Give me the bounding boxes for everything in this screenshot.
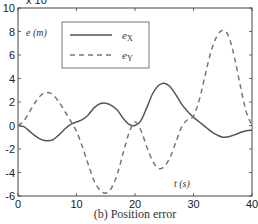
y-tick-label: 0 [9, 120, 15, 132]
legend-box [62, 22, 149, 68]
caption: (b) Position error [94, 207, 177, 221]
position-error-chart: 010203040-6-4-20246810 eXeY x 10-3 e (m)… [0, 0, 258, 224]
y-tick-label: -2 [5, 143, 15, 155]
y-tick-label: 4 [9, 73, 15, 85]
y-multiplier: x 10-3 [26, 0, 53, 6]
y-axis-label: e (m) [26, 27, 47, 39]
legend: eXeY [62, 22, 149, 68]
y-multiplier-exponent: -3 [47, 0, 53, 1]
series-line-eX [18, 83, 252, 141]
y-tick-label: -4 [5, 167, 15, 179]
y-tick-label: 10 [3, 2, 15, 14]
x-axis-label: t (s) [174, 178, 191, 190]
y-tick-label: 6 [9, 49, 15, 61]
y-tick-label: 2 [9, 96, 15, 108]
x-tick-label: 0 [15, 198, 21, 210]
x-tick-label: 10 [70, 198, 82, 210]
y-tick-label: 8 [9, 26, 15, 38]
x-tick-label: 30 [187, 198, 199, 210]
y-tick-label: -6 [5, 190, 15, 202]
x-tick-label: 40 [246, 198, 258, 210]
